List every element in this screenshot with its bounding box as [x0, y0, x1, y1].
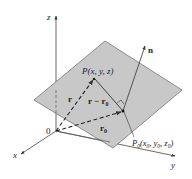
x-axis-label: x: [12, 150, 17, 160]
point-P0-label: P0(x0, y0, z0): [131, 138, 173, 149]
point-P-label: P(x, y, z): [81, 66, 114, 76]
x-axis: [21, 131, 56, 154]
n-label: n: [148, 45, 153, 55]
y-axis-label: y: [170, 160, 175, 170]
vector-r-minus-r0-label: r − r0: [88, 96, 108, 107]
origin-label: 0: [46, 126, 51, 136]
point-P: [93, 78, 96, 81]
plane-diagram: z x y 0 n P(x, y, z) r r − r0 r0 P0(x0, …: [0, 0, 192, 179]
z-axis-label: z: [46, 12, 51, 22]
point-P0: [122, 110, 125, 113]
vector-r-label: r: [68, 94, 72, 104]
